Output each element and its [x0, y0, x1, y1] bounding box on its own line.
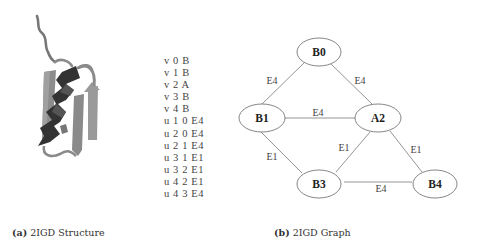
edge-label: E4	[375, 183, 386, 194]
graph-listing: v 0 B v 1 B v 2 A v 3 B v 4 B u 1 0 E4 u…	[164, 55, 204, 200]
edge-label: E1	[266, 151, 277, 162]
edge-label: E4	[354, 75, 365, 86]
caption-a-label: (a)	[12, 227, 27, 238]
listing-line: u 3 1 E1	[164, 152, 204, 164]
caption-b: (b) 2IGD Graph	[274, 227, 351, 238]
listing-line: v 0 B	[164, 55, 204, 67]
listing-line: v 4 B	[164, 103, 204, 115]
listing-line: u 2 0 E4	[164, 128, 204, 140]
caption-b-text: 2IGD Graph	[293, 227, 351, 238]
node-label: A2	[371, 112, 385, 124]
protein-structure-image	[0, 0, 130, 195]
node-label: B3	[312, 178, 326, 190]
listing-line: u 2 1 E4	[164, 140, 204, 152]
caption-b-label: (b)	[274, 227, 290, 238]
edge-label: E1	[338, 142, 349, 153]
caption-a: (a) 2IGD Structure	[12, 227, 105, 238]
listing-line: u 3 2 E1	[164, 164, 204, 176]
node-label: B0	[312, 46, 326, 58]
listing-line: u 4 2 E1	[164, 176, 204, 188]
edge-a2-b0	[330, 63, 372, 104]
edge-label: E1	[410, 144, 421, 155]
listing-line: v 1 B	[164, 67, 204, 79]
listing-line: u 4 3 E4	[164, 188, 204, 200]
graph-diagram: B0 B1 A2 B3 B4 E4 E4 E4 E1 E1 E1 E4	[230, 0, 484, 210]
node-label: B1	[255, 112, 269, 124]
edge-label: E4	[266, 75, 277, 86]
node-label: B4	[428, 178, 442, 190]
caption-a-text: 2IGD Structure	[30, 227, 104, 238]
listing-line: v 2 A	[164, 79, 204, 91]
edge-label: E4	[312, 107, 323, 118]
listing-line: u 1 0 E4	[164, 115, 204, 127]
listing-line: v 3 B	[164, 91, 204, 103]
